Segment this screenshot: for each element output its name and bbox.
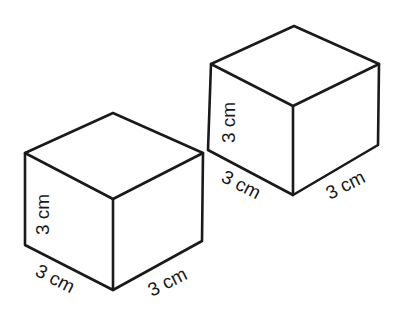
right-cube-depth-label: 3 cm <box>218 166 264 203</box>
right-cube: 3 cm 3 cm 3 cm <box>208 26 379 204</box>
left-cube-right-face <box>113 153 203 290</box>
left-cube-depth-label: 3 cm <box>32 260 78 297</box>
left-cube-top-face <box>25 113 203 199</box>
right-cube-width-label: 3 cm <box>322 166 368 203</box>
right-cube-height-label: 3 cm <box>218 102 239 143</box>
left-cube: 3 cm 3 cm 3 cm <box>25 113 203 301</box>
cubes-diagram: 3 cm 3 cm 3 cm 3 cm 3 cm 3 cm <box>0 0 398 316</box>
right-cube-top-face <box>211 26 379 106</box>
left-cube-height-label: 3 cm <box>32 194 53 235</box>
